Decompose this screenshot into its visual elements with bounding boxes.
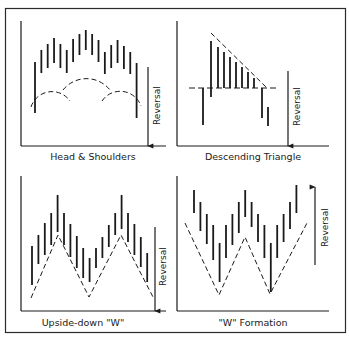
panel-descending-triangle: Reversal Descending Triangle — [177, 21, 329, 162]
caption-head-shoulders: Head & Shoulders — [50, 151, 136, 162]
reversal-label: Reversal — [152, 86, 162, 125]
right-shoulder-arc — [102, 91, 141, 106]
caption-descending-triangle: Descending Triangle — [205, 151, 301, 162]
chart-patterns-figure: Reversal Head & Shoulders Reversal Desce… — [0, 0, 349, 340]
panel-upside-down-w: Reversal Upside-down "W" — [21, 176, 168, 328]
reversal-label: Reversal — [158, 247, 168, 286]
price-bars — [203, 41, 268, 126]
resistance-line — [211, 33, 267, 88]
caption-upside-down-w: Upside-down "W" — [42, 317, 125, 328]
neckline-arcs — [31, 79, 141, 107]
head-arc — [63, 79, 110, 90]
reversal-label: Reversal — [320, 208, 330, 247]
panel-w-formation: Reversal "W" Formation — [177, 176, 330, 328]
price-bars — [35, 30, 137, 118]
price-bars — [32, 195, 147, 285]
outer-frame — [6, 9, 346, 333]
panel-head-shoulders: Reversal Head & Shoulders — [21, 21, 166, 162]
caption-w-formation: "W" Formation — [218, 317, 287, 328]
reversal-label: Reversal — [292, 87, 302, 126]
left-shoulder-arc — [31, 92, 70, 107]
w-trendline — [185, 223, 307, 295]
